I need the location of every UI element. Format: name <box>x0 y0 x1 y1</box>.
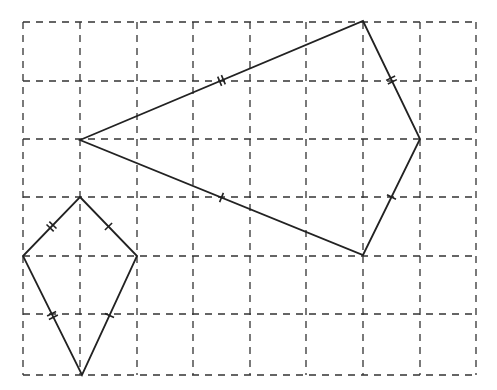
kite-shapes <box>23 21 420 375</box>
dashed-grid <box>23 22 476 375</box>
diagram-canvas <box>0 0 497 390</box>
